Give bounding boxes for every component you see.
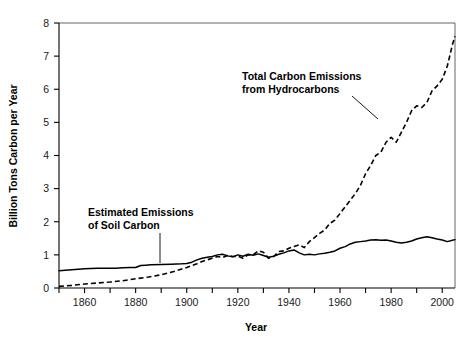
x-axis-tick-label: 1960 bbox=[328, 296, 352, 308]
y-axis-tick-label: 5 bbox=[43, 116, 49, 128]
y-axis-tick-label: 4 bbox=[43, 149, 49, 161]
x-axis-tick-label: 1860 bbox=[73, 296, 97, 308]
y-axis-title: Billion Tons Carbon per Year bbox=[7, 84, 19, 227]
y-axis-tick-label: 1 bbox=[43, 249, 49, 261]
x-axis-tick-label: 1920 bbox=[226, 296, 250, 308]
hydrocarbons-annotation-line1: Total Carbon Emissions bbox=[242, 70, 362, 82]
emissions-line-chart: 012345678 186018801900192019401960198020… bbox=[0, 0, 470, 345]
y-axis-tick-label: 6 bbox=[43, 83, 49, 95]
x-axis-tick-label: 1900 bbox=[175, 296, 199, 308]
x-axis-title: Year bbox=[245, 321, 267, 333]
x-axis-tick-label: 2000 bbox=[431, 296, 455, 308]
y-axis-tick-label: 3 bbox=[43, 182, 49, 194]
y-axis-tick-label: 2 bbox=[43, 216, 49, 228]
hydrocarbons-annotation-line2: from Hydrocarbons bbox=[242, 83, 340, 95]
chart-background bbox=[0, 0, 470, 345]
soil-carbon-annotation-line2: of Soil Carbon bbox=[88, 219, 160, 231]
x-axis-tick-label: 1880 bbox=[124, 296, 148, 308]
chart-figure: 012345678 186018801900192019401960198020… bbox=[0, 0, 470, 345]
x-axis-tick-label: 1940 bbox=[277, 296, 301, 308]
soil-carbon-annotation-line1: Estimated Emissions bbox=[88, 206, 194, 218]
x-axis-tick-label: 1980 bbox=[379, 296, 403, 308]
y-axis-tick-label: 8 bbox=[43, 17, 49, 29]
y-axis-tick-label: 0 bbox=[43, 282, 49, 294]
y-axis-tick-label: 7 bbox=[43, 50, 49, 62]
